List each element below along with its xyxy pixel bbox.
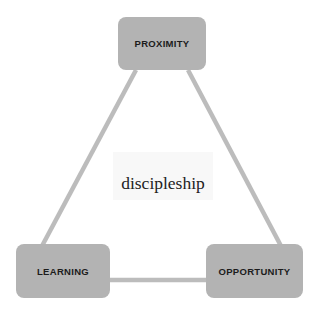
center-label: discipleship [113, 152, 213, 200]
discipleship-triangle-diagram: discipleship PROXIMITY LEARNING OPPORTUN… [0, 0, 316, 313]
center-label-text: discipleship [121, 173, 205, 194]
node-opportunity-label: OPPORTUNITY [219, 266, 291, 277]
node-proximity-label: PROXIMITY [135, 38, 190, 49]
node-learning-label: LEARNING [37, 266, 89, 277]
node-learning: LEARNING [16, 244, 110, 298]
node-proximity: PROXIMITY [118, 17, 206, 70]
node-opportunity: OPPORTUNITY [206, 244, 303, 298]
